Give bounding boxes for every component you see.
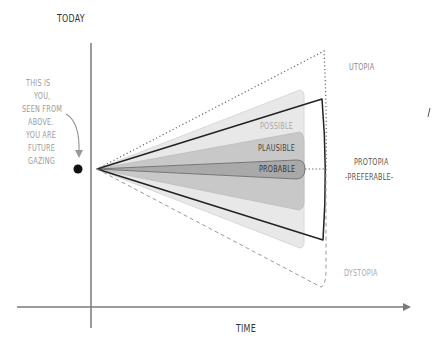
annotation-line: GAZING <box>28 156 70 166</box>
annotation-line: FUTURE <box>28 143 70 153</box>
probable-label: PROBABLE <box>259 164 295 174</box>
plausible-label: PLAUSIBLE <box>258 143 295 153</box>
protopia-label: PROTOPIA <box>354 157 389 167</box>
time-label: TIME <box>236 322 256 335</box>
possible-label: POSSIBLE <box>260 121 293 131</box>
partial-glyph <box>428 108 430 117</box>
annotation-line: ABOVE. <box>28 117 70 127</box>
dystopia-label: DYSTOPIA <box>344 268 378 278</box>
annotation-line: YOU ARE <box>26 130 68 140</box>
today-label: TODAY <box>57 12 85 25</box>
annotation-line: YOU, <box>34 91 76 101</box>
arrow-head-icon <box>75 150 83 158</box>
time-arrowhead-icon <box>403 303 411 311</box>
observer-annotation: THIS IS YOU, SEEN FROM ABOVE. YOU ARE FU… <box>14 78 72 148</box>
preferable-label: -PREFERABLE- <box>345 172 393 182</box>
utopia-label: UTOPIA <box>349 62 374 72</box>
annotation-line: THIS IS <box>26 78 68 88</box>
observer-dot <box>74 165 83 174</box>
annotation-line: SEEN FROM <box>22 104 64 114</box>
